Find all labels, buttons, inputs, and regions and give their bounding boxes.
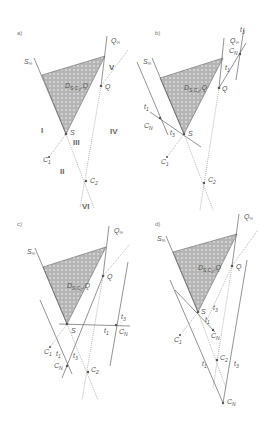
- label-q-inf-a: Q∞: [111, 37, 120, 45]
- point-c2-a: [85, 180, 87, 182]
- region-dscq-d: [173, 234, 237, 312]
- point-q-b: [218, 87, 221, 90]
- label-q-inf-b: Q∞: [230, 37, 239, 45]
- label-s-c: S: [71, 327, 76, 334]
- region-dscq-a: [42, 56, 105, 134]
- point-c2-c: [87, 371, 89, 373]
- point-c1-a: [48, 156, 50, 158]
- label-t1-upper-d: t1: [205, 316, 210, 325]
- figure-four-panels: a) S∞ Q∞ Q S DS,C2,Q C1 C2 I II III IV V…: [0, 0, 272, 423]
- label-t3-left-b: t3: [170, 129, 175, 138]
- panel-label-b: b): [155, 30, 160, 36]
- label-s-inf-d: S∞: [157, 235, 166, 243]
- panel-b: b) S∞ Q∞ Q S DS,C2,Q CN CN t1 t3 t1 t3 C…: [137, 26, 246, 210]
- point-s-b: [183, 133, 186, 136]
- point-s-c: [66, 323, 69, 326]
- point-q-d: [231, 265, 234, 268]
- panel-a: a) S∞ Q∞ Q S DS,C2,Q C1 C2 I II III IV V…: [17, 30, 128, 211]
- label-s-d: S: [201, 308, 206, 315]
- region-label-v: V: [109, 63, 115, 72]
- point-c1-b: [166, 156, 168, 158]
- label-q-a: Q: [105, 83, 111, 91]
- point-s-a: [65, 133, 68, 136]
- label-t1-c: t1: [104, 327, 109, 336]
- label-cn-left-b: CN: [144, 122, 153, 131]
- label-t1-lower-c: t1: [56, 350, 61, 359]
- label-c2-c: C2: [91, 366, 99, 375]
- label-t3-upper-d: t3: [213, 304, 218, 313]
- label-t3-right-b: t3: [240, 26, 245, 35]
- region-label-ii: II: [60, 167, 64, 176]
- line-c1-s-a: [49, 134, 66, 157]
- point-c1-d: [179, 334, 181, 336]
- label-cn-lower-d: CN: [227, 398, 236, 407]
- line-t3-lower-d: [223, 260, 247, 403]
- label-c1-b: C1: [161, 158, 169, 167]
- label-t1-left-b: t1: [144, 103, 149, 112]
- label-t3-right-c: t3: [121, 313, 126, 322]
- label-cn-right-b: CN: [229, 47, 238, 56]
- label-s-inf-b: S∞: [143, 58, 152, 66]
- line-c1-s-d: [180, 312, 198, 335]
- line-c1-s-b: [167, 134, 184, 157]
- panel-c: c) S∞ Q∞ Q S DS,C2,Q CN t1 t3 C1 t1 t3 C…: [17, 221, 130, 400]
- line-q-c2-a: [80, 86, 101, 208]
- label-c1-d: C1: [174, 336, 182, 345]
- label-q-inf-c: Q∞: [114, 227, 123, 235]
- panel-label-a: a): [17, 30, 22, 36]
- label-q-inf-d: Q∞: [244, 213, 253, 221]
- point-cn-upper-d: [212, 329, 214, 331]
- line-s-c2-a: [66, 134, 94, 208]
- point-c2-d: [216, 359, 218, 361]
- line-s-c2-c: [67, 324, 98, 400]
- line-q-c2-c: [82, 276, 103, 400]
- label-t1-right-b: t1: [225, 64, 230, 73]
- panel-label-c: c): [17, 221, 22, 227]
- label-t1-lower-d: t1: [202, 360, 207, 369]
- point-q-c: [102, 275, 105, 278]
- point-cn-lower-d: [222, 402, 224, 404]
- panel-d: d) S∞ Q∞ Q S DS,C2,Q t1 t3 CN C1 C2 t1 t…: [155, 213, 258, 407]
- label-cn-upper-d: CN: [211, 332, 220, 341]
- label-q-b: Q: [222, 85, 228, 93]
- point-c1-c: [49, 346, 51, 348]
- label-q-c: Q: [107, 273, 113, 281]
- line-q-c2-b: [200, 88, 219, 210]
- label-t3-lower-c: t3: [73, 352, 78, 361]
- line-t3-left-b: [150, 112, 201, 147]
- point-cn-bottom-c: [66, 365, 68, 367]
- label-s-inf-a: S∞: [24, 58, 33, 66]
- point-c2-b: [203, 182, 205, 184]
- point-s-d: [197, 311, 200, 314]
- region-label-i: I: [41, 126, 43, 135]
- line-sq-ext-a: [101, 50, 128, 86]
- label-cn-bottom-c: CN: [54, 362, 63, 371]
- region-label-iv: IV: [110, 127, 118, 136]
- point-cn-right-c: [115, 324, 117, 326]
- panel-label-d: d): [155, 221, 160, 227]
- point-cn-left-b: [159, 117, 161, 119]
- label-s-b: S: [188, 130, 193, 137]
- region-label-vi: VI: [82, 202, 90, 211]
- region-dscq-b: [160, 58, 223, 134]
- label-s-inf-c: S∞: [27, 248, 36, 256]
- point-q-a: [100, 85, 103, 88]
- label-s-a: S: [70, 129, 75, 136]
- label-c2-a: C2: [90, 177, 98, 186]
- label-q-d: Q: [236, 263, 242, 271]
- label-cn-right-c: CN: [119, 328, 128, 337]
- label-c1-c: C1: [44, 348, 52, 357]
- line-q-c2-d: [213, 266, 232, 388]
- line-t3-right-c: [110, 262, 128, 366]
- point-cn-right-b: [239, 53, 241, 55]
- label-t3-lower-d: t3: [234, 360, 239, 369]
- label-c2-d: C2: [220, 354, 228, 363]
- label-c2-b: C2: [208, 176, 216, 185]
- region-label-iii: III: [73, 138, 80, 147]
- line-sq-ext-c: [103, 244, 130, 276]
